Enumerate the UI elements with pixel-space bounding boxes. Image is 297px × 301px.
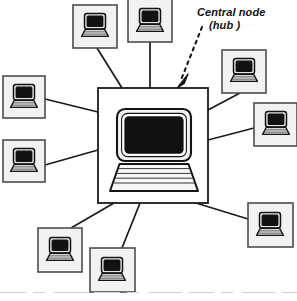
link-bottom-right bbox=[196, 203, 248, 219]
link-right-middle bbox=[208, 128, 254, 140]
link-right-upper bbox=[208, 93, 240, 110]
hub-pointer-dashed-line bbox=[181, 27, 202, 80]
diagram-canvas bbox=[0, 0, 297, 301]
node-right-middle[interactable] bbox=[254, 103, 297, 146]
link-left-lower bbox=[45, 150, 98, 165]
node-left-upper[interactable] bbox=[3, 76, 45, 118]
annotation-central-node-label: Central node bbox=[197, 6, 265, 18]
node-right-upper[interactable] bbox=[222, 50, 266, 93]
laptop-icon bbox=[137, 9, 164, 32]
link-top-left bbox=[97, 48, 122, 88]
laptop-icon bbox=[263, 112, 290, 135]
laptop-icon bbox=[82, 14, 109, 37]
laptop-icon bbox=[257, 213, 284, 236]
link-left-upper bbox=[45, 99, 98, 112]
node-top-center[interactable] bbox=[128, 0, 172, 42]
laptop-icon bbox=[11, 85, 38, 108]
link-bottom-left bbox=[71, 203, 114, 228]
computer-icon bbox=[110, 109, 198, 191]
laptop-icon bbox=[11, 149, 38, 172]
laptop-icon bbox=[99, 258, 126, 281]
annotation-hub-label: (hub ) bbox=[209, 19, 240, 31]
node-left-lower[interactable] bbox=[3, 140, 45, 182]
link-bottom-center bbox=[122, 203, 140, 248]
node-top-left[interactable] bbox=[73, 5, 117, 48]
node-bottom-center[interactable] bbox=[90, 248, 135, 292]
hub-pointer-arrow bbox=[177, 27, 202, 88]
star-topology-diagram: Central node (hub ) bbox=[0, 0, 297, 301]
laptop-icon bbox=[231, 59, 258, 82]
laptop-icon bbox=[47, 238, 74, 261]
central-node[interactable] bbox=[98, 88, 208, 203]
node-bottom-right[interactable] bbox=[248, 203, 293, 247]
node-bottom-left[interactable] bbox=[38, 228, 82, 272]
